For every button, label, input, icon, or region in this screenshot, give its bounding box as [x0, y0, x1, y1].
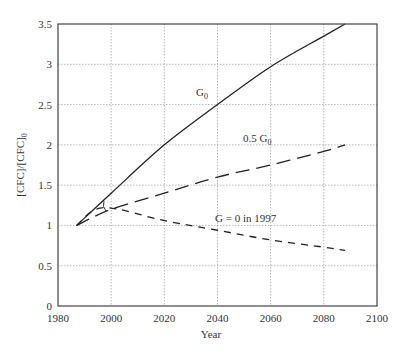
- x-tick-label: 2020: [153, 312, 176, 324]
- data-series: [77, 24, 345, 250]
- x-tick-label: 2000: [100, 312, 123, 324]
- x-tick-label: 2060: [260, 312, 283, 324]
- annotation-pointer: [103, 201, 106, 211]
- y-tick-label: 1.5: [38, 179, 52, 191]
- series-line: [77, 208, 345, 251]
- y-axis-label: [CFC]/[CFC]0: [14, 133, 29, 196]
- y-tick-label: 3: [47, 58, 53, 70]
- x-axis-ticks: 1980200020202040206020802100: [47, 312, 389, 324]
- y-tick-label: 0.5: [38, 260, 52, 272]
- x-axis-label: Year: [201, 328, 222, 340]
- x-tick-label: 2100: [366, 312, 389, 324]
- x-tick-label: 2080: [313, 312, 336, 324]
- y-tick-label: 0: [47, 300, 53, 312]
- chart: 1980200020202040206020802100 00.511.522.…: [0, 0, 403, 359]
- y-tick-label: 2: [47, 139, 53, 151]
- annotation-g-zero: G = 0 in 1997: [215, 212, 277, 224]
- y-tick-label: 1: [47, 219, 53, 231]
- annotation-g0: G0: [196, 86, 208, 101]
- x-tick-label: 1980: [47, 312, 70, 324]
- y-tick-label: 3.5: [38, 18, 52, 30]
- y-tick-label: 2.5: [38, 99, 52, 111]
- gridlines: [58, 24, 377, 306]
- series-line: [77, 24, 345, 225]
- y-axis-ticks: 00.511.522.533.5: [38, 18, 52, 312]
- x-tick-label: 2040: [207, 312, 230, 324]
